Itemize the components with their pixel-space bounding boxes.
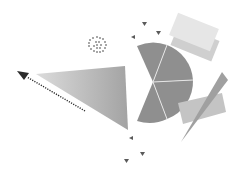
abstract-illustration — [0, 0, 248, 175]
marker-icon — [129, 136, 133, 140]
marker-icon — [140, 152, 145, 156]
marker-icon — [142, 22, 147, 26]
large-triangle-shape — [36, 66, 128, 130]
marker-icon — [124, 159, 129, 163]
arrow-head-icon — [17, 71, 29, 80]
marker-icon — [131, 35, 135, 39]
dotted-spiral-icon — [88, 36, 107, 53]
marker-icon — [156, 31, 161, 35]
